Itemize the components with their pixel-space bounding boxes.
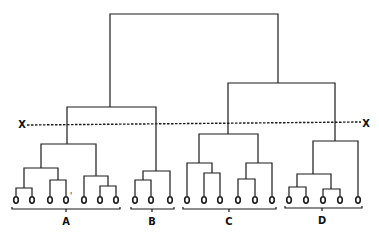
leaf-node [236, 197, 241, 203]
leaf-nodes [14, 197, 361, 203]
leaf-node [64, 197, 69, 203]
leaf-node [218, 197, 223, 203]
cluster-bracket [131, 207, 174, 212]
tree-link [16, 188, 32, 196]
leaf-node [185, 197, 190, 203]
leaf-node [338, 197, 343, 203]
cluster-label-a: A [62, 216, 70, 227]
tree-link [228, 83, 335, 141]
leaf-node [82, 197, 87, 203]
cluster-label-c: C [225, 216, 232, 227]
tree-link [100, 186, 116, 196]
cut-line [27, 122, 361, 125]
leaf-node [304, 197, 309, 203]
dendrogram-svg [0, 0, 379, 237]
cluster-bracket [183, 207, 276, 212]
cluster-bracket [12, 207, 120, 212]
cluster-label-d: D [318, 215, 326, 226]
tree-link [199, 134, 258, 163]
leaf-node [321, 197, 326, 203]
leaf-node [98, 197, 103, 203]
leaf-node [14, 197, 19, 203]
leaf-node [48, 197, 53, 203]
tree-link [238, 179, 255, 196]
tree-link [110, 14, 278, 107]
tree-link [289, 187, 306, 196]
cluster-bracket [285, 206, 362, 211]
leaf-node [133, 197, 138, 203]
dendrogram-figure: X X A B C D ' [0, 0, 379, 237]
leaf-node [270, 197, 275, 203]
tree-link [135, 180, 151, 196]
cluster-label-b: B [148, 216, 156, 227]
tree-link [313, 141, 358, 196]
leaf-node [202, 197, 207, 203]
leaf-node [253, 197, 258, 203]
tree-link [143, 171, 170, 196]
cut-label-left: X [18, 119, 26, 130]
tree-link [50, 180, 66, 196]
cut-label-right: X [362, 118, 370, 129]
leaf-node [30, 197, 35, 203]
leaf-node [356, 197, 361, 203]
cut-dashed-line [27, 122, 361, 125]
tree-link [204, 173, 220, 196]
tree-link [41, 144, 96, 176]
leaf-node [114, 197, 119, 203]
cluster-brackets [12, 206, 362, 212]
leaf-node [168, 197, 173, 203]
leaf-node [149, 197, 154, 203]
leaf-node [287, 197, 292, 203]
tree-link [67, 107, 156, 171]
tree-link [24, 168, 58, 188]
tree-link [323, 189, 340, 196]
tree-link [187, 163, 212, 196]
leaf-prime-mark: ' [70, 192, 72, 201]
tree-links [16, 14, 358, 196]
